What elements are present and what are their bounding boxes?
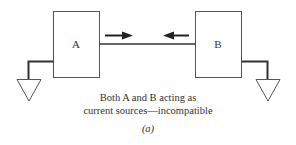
caption-line-1: Both A and B acting as	[100, 92, 197, 103]
caption-line-2: current sources—incompatible	[83, 105, 213, 116]
circuit-diagram: A B Both A and B acting as current sourc…	[0, 0, 296, 145]
arrow-left-icon	[163, 32, 189, 40]
block-b-label: B	[214, 38, 221, 50]
figure-sublabel: (a)	[142, 123, 155, 135]
block-b: B	[196, 12, 242, 78]
block-a: A	[54, 12, 100, 78]
ground-icon-b	[242, 62, 281, 102]
ground-icon-a	[17, 62, 54, 102]
block-a-label: A	[72, 38, 80, 50]
arrow-right-icon	[105, 32, 133, 40]
